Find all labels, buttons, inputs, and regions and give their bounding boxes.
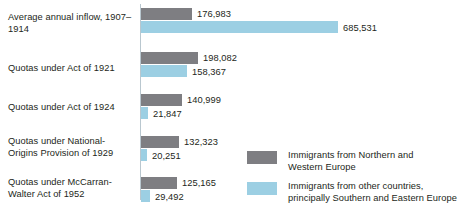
bar-other-1 — [141, 65, 187, 77]
bar-other-4 — [141, 190, 150, 202]
legend-label-north: Immigrants from Northern and Western Eur… — [288, 150, 413, 173]
bar-value-north-1: 198,082 — [203, 52, 237, 64]
bar-value-other-3: 20,251 — [152, 150, 181, 162]
bar-value-north-3: 132,323 — [184, 136, 218, 148]
bar-value-north-0: 176,983 — [197, 8, 231, 20]
bar-value-other-1: 158,367 — [192, 66, 226, 78]
category-label-4: Quotas under McCarran- Walter Act of 195… — [8, 176, 136, 200]
bar-north-4 — [141, 177, 177, 189]
bar-north-3 — [141, 136, 179, 148]
bar-other-0 — [141, 21, 338, 33]
legend-swatch-other-icon — [247, 182, 277, 195]
category-label-1: Quotas under Act of 1921 — [8, 62, 136, 74]
bar-value-north-4: 125,165 — [182, 177, 216, 189]
bar-value-other-4: 29,492 — [155, 191, 184, 203]
legend-item-other: Immigrants from other countries, princip… — [247, 181, 457, 204]
category-label-3: Quotas under National- Origins Provision… — [8, 135, 136, 159]
legend-label-other: Immigrants from other countries, princip… — [288, 181, 457, 204]
category-label-column: Average annual inflow, 1907–1914 Quotas … — [0, 0, 134, 215]
category-label-0: Average annual inflow, 1907–1914 — [8, 11, 136, 35]
bar-north-2 — [141, 94, 182, 106]
bar-north-1 — [141, 52, 198, 64]
legend-item-north: Immigrants from Northern and Western Eur… — [247, 150, 413, 173]
bar-other-3 — [141, 149, 147, 161]
bar-value-other-2: 21,847 — [153, 108, 182, 120]
immigration-quotas-bar-chart: Average annual inflow, 1907–1914 Quotas … — [0, 0, 462, 215]
category-label-2: Quotas under Act of 1924 — [8, 101, 136, 113]
legend-swatch-north-icon — [247, 151, 277, 164]
bar-value-north-2: 140,999 — [187, 94, 221, 106]
bar-other-2 — [141, 107, 148, 119]
bar-value-other-0: 685,531 — [343, 22, 377, 34]
bar-north-0 — [141, 8, 192, 20]
